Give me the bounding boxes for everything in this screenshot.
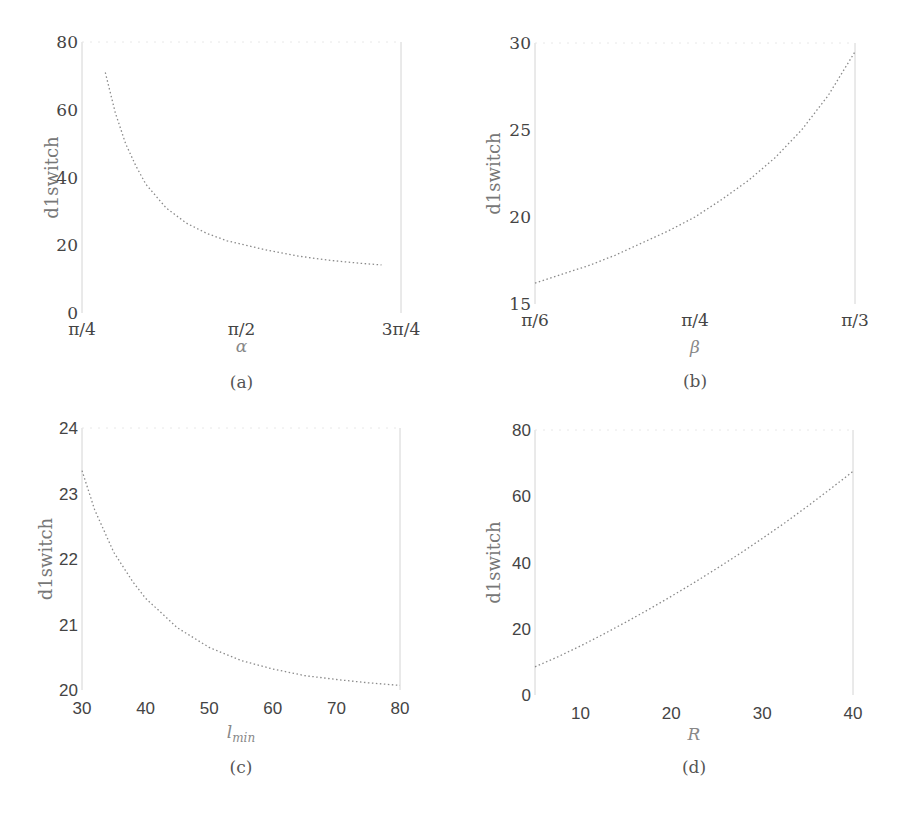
y-axis-label: d1switch: [483, 521, 504, 604]
y-tick-label: 22: [59, 550, 78, 569]
x-tick-label: 50: [200, 699, 219, 718]
y-tick-label: 60: [512, 487, 531, 506]
y-tick-label: 80: [56, 32, 78, 52]
panel-d: 02040608010203040d1switchR(d): [483, 421, 862, 777]
y-axis-label: d1switch: [483, 132, 504, 215]
data-series-line: [105, 73, 381, 265]
data-series-line: [82, 471, 400, 686]
x-axis-label: R: [687, 724, 701, 744]
y-axis-label: d1switch: [35, 517, 56, 600]
data-series-line: [535, 52, 855, 283]
y-tick-label: 24: [59, 419, 78, 438]
x-axis-label: β: [689, 337, 700, 357]
y-tick-label: 25: [509, 120, 531, 140]
x-tick-label: π/4: [681, 310, 709, 330]
x-tick-label: 30: [753, 704, 772, 723]
x-tick-label: 3π/4: [382, 319, 421, 339]
panel-caption: (c): [230, 757, 253, 777]
y-tick-label: 21: [59, 616, 78, 635]
panel-a: 020406080π/4π/23π/4d1switchα(a): [41, 32, 420, 392]
x-tick-label: 20: [662, 704, 681, 723]
x-tick-label: 40: [136, 699, 155, 718]
y-tick-label: 80: [512, 421, 531, 440]
y-tick-label: 60: [56, 100, 78, 120]
y-tick-label: 20: [56, 235, 78, 255]
y-axis-label: d1switch: [41, 136, 62, 219]
x-tick-label: π/3: [841, 310, 869, 330]
panel-b: 15202530π/6π/4π/3d1switchβ(b): [483, 33, 869, 391]
y-tick-label: 23: [59, 485, 78, 504]
y-tick-label: 20: [509, 207, 531, 227]
x-tick-label: 10: [571, 704, 590, 723]
x-tick-label: 30: [73, 699, 92, 718]
x-tick-label: 70: [327, 699, 346, 718]
y-tick-label: 20: [512, 620, 531, 639]
y-tick-label: 20: [59, 681, 78, 700]
y-tick-label: 40: [512, 554, 531, 573]
x-tick-label: π/4: [68, 319, 96, 339]
panel-caption: (b): [683, 371, 707, 391]
data-series-line: [535, 471, 853, 666]
figure: 020406080π/4π/23π/4d1switchα(a)15202530π…: [0, 0, 903, 821]
panel-c: 2021222324304050607080d1switchlmin(c): [35, 419, 409, 777]
x-tick-label: 60: [263, 699, 282, 718]
y-tick-label: 30: [509, 33, 531, 53]
x-axis-label: lmin: [227, 722, 255, 745]
y-tick-label: 0: [522, 686, 531, 705]
panel-caption: (a): [230, 372, 253, 392]
x-tick-label: π/6: [521, 310, 549, 330]
x-tick-label: 80: [391, 699, 410, 718]
panel-caption: (d): [682, 757, 706, 777]
x-tick-label: 40: [844, 704, 863, 723]
x-axis-label: α: [236, 336, 248, 356]
